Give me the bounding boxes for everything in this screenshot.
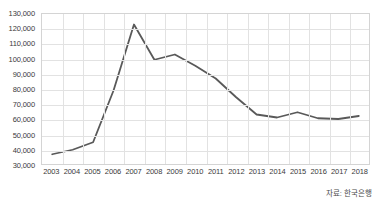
x-tick-label: 2009 [167,167,183,176]
y-tick-label: 80,000 [13,85,35,94]
gridline-vertical [289,14,290,164]
gridline-horizontal [42,151,369,152]
x-tick-label: 2003 [43,167,59,176]
y-tick-label: 30,000 [13,161,35,170]
x-tick-label: 2008 [146,167,162,176]
gridline-vertical [83,14,84,164]
gridline-vertical [186,14,187,164]
x-tick-label: 2018 [352,167,368,176]
gridline-vertical [248,14,249,164]
y-tick-label: 120,000 [9,24,35,33]
line-chart-figure: 130,000120,000110,000100,00090,00080,000… [0,0,380,203]
gridline-vertical [309,14,310,164]
x-tick-label: 2017 [331,167,347,176]
x-tick-label: 2013 [249,167,265,176]
gridline-vertical [63,14,64,164]
gridline-horizontal [42,75,369,76]
gridline-vertical [145,14,146,164]
gridline-vertical [104,14,105,164]
gridline-horizontal [42,44,369,45]
x-tick-label: 2005 [84,167,100,176]
gridline-vertical [227,14,228,164]
x-tick-label: 2016 [310,167,326,176]
gridline-vertical [350,14,351,164]
data-series-svg [42,14,369,164]
gridline-vertical [330,14,331,164]
y-axis: 130,000120,000110,000100,00090,00080,000… [0,13,38,165]
gridline-horizontal [42,60,369,61]
y-tick-label: 100,000 [9,54,35,63]
x-tick-label: 2004 [64,167,80,176]
y-tick-label: 90,000 [13,69,35,78]
x-tick-label: 2012 [228,167,244,176]
x-tick-label: 2011 [208,167,224,176]
y-tick-label: 50,000 [13,130,35,139]
gridline-horizontal [42,90,369,91]
y-tick-label: 70,000 [13,100,35,109]
x-tick-label: 2006 [105,167,121,176]
y-tick-label: 40,000 [13,145,35,154]
gridline-vertical [165,14,166,164]
y-tick-label: 130,000 [9,9,35,18]
x-tick-label: 2015 [290,167,306,176]
y-tick-label: 110,000 [9,39,35,48]
gridline-horizontal [42,136,369,137]
gridline-horizontal [42,120,369,121]
gridline-vertical [124,14,125,164]
source-note: 자료: 한국은행 [326,187,372,198]
x-tick-label: 2010 [187,167,203,176]
gridline-horizontal [42,29,369,30]
x-tick-label: 2007 [125,167,141,176]
gridline-vertical [207,14,208,164]
plot-area [41,13,370,165]
gridline-vertical [268,14,269,164]
x-tick-label: 2014 [269,167,285,176]
x-axis: 2003200420052006200720082009201020112012… [41,167,370,181]
y-tick-label: 60,000 [13,115,35,124]
gridline-horizontal [42,105,369,106]
